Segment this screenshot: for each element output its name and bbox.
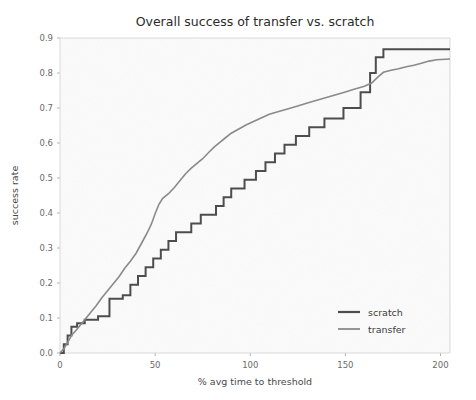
x-tick-label: 150 [337,360,353,370]
figure-canvas: Overall success of transfer vs. scratch … [0,0,476,400]
y-tick-label: 0.1 [39,313,53,323]
legend-label-transfer: transfer [368,324,406,335]
y-axis-label: success rate [9,166,20,226]
x-tick-label: 0 [57,360,62,370]
y-tick-label: 0.6 [39,138,53,148]
x-tick-label: 200 [432,360,448,370]
y-tick-label: 0.2 [39,278,53,288]
x-axis-label: % avg time to threshold [198,376,312,387]
y-tick-label: 0.4 [39,208,53,218]
chart-plot: Overall success of transfer vs. scratch … [0,0,476,400]
y-tick-label: 0.7 [39,103,53,113]
y-tick-label: 0.5 [39,173,53,183]
y-tick-label: 0.0 [39,348,53,358]
y-tick-label: 0.3 [39,243,53,253]
legend-label-scratch: scratch [368,307,403,318]
chart-title: Overall success of transfer vs. scratch [136,14,375,29]
y-tick-label: 0.8 [39,68,53,78]
x-tick-label: 50 [150,360,161,370]
x-tick-label: 100 [242,360,258,370]
y-tick-label: 0.9 [39,33,53,43]
